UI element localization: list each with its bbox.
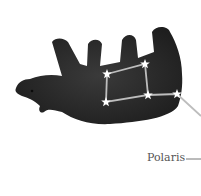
ursa-major-illustration (0, 0, 201, 196)
polaris-label: Polaris (147, 151, 185, 164)
bear-silhouette (15, 27, 182, 124)
bear-eye (31, 90, 34, 93)
